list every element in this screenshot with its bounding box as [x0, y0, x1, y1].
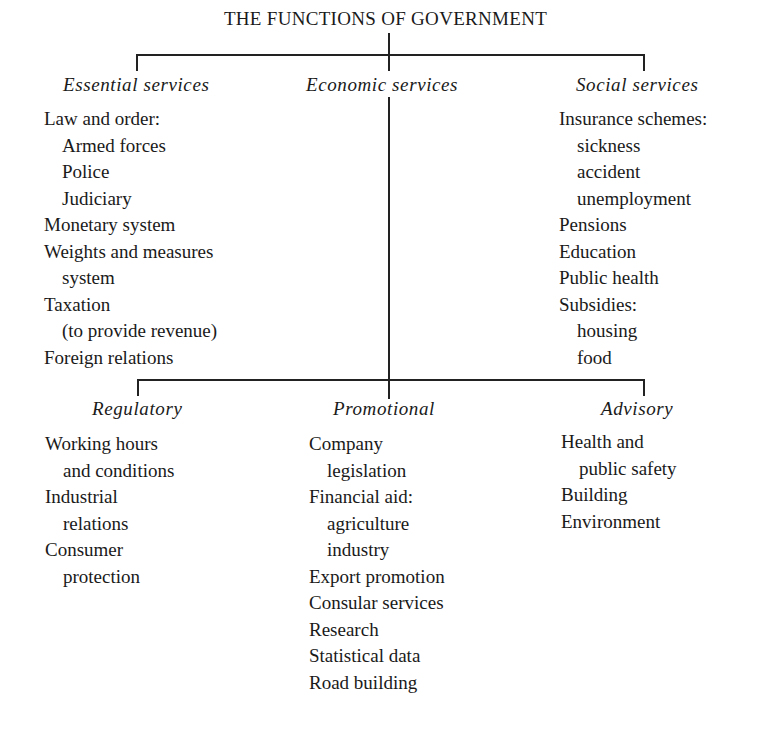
list-item: legislation [309, 458, 445, 485]
list-item: Armed forces [44, 133, 217, 160]
list-item: accident [559, 159, 707, 186]
connector-advisory-drop [643, 379, 645, 396]
list-item: Monetary system [44, 212, 217, 239]
list-item: agriculture [309, 511, 445, 538]
list-item: Export promotion [309, 564, 445, 591]
list-item: system [44, 265, 217, 292]
list-item: food [559, 345, 707, 372]
regulatory-list: Working hours and conditions Industrial … [45, 431, 174, 590]
list-item: Education [559, 239, 707, 266]
list-item: Insurance schemes: [559, 106, 707, 133]
heading-promotional: Promotional [333, 398, 435, 420]
list-item: public safety [561, 456, 677, 483]
list-item: relations [45, 511, 174, 538]
list-item: Environment [561, 509, 677, 536]
essential-services-list: Law and order: Armed forces Police Judic… [44, 106, 217, 371]
connector-title-stem [388, 33, 390, 55]
list-item: sickness [559, 133, 707, 160]
connector-economic-drop [388, 54, 390, 71]
connector-social-drop [643, 54, 645, 71]
list-item: Consular services [309, 590, 445, 617]
list-item: Working hours [45, 431, 174, 458]
advisory-list: Health and public safety Building Enviro… [561, 429, 677, 535]
connector-essential-drop [136, 54, 138, 71]
connector-lower-bar [137, 379, 645, 381]
list-item: Foreign relations [44, 345, 217, 372]
list-item: and conditions [45, 458, 174, 485]
list-item: Subsidies: [559, 292, 707, 319]
list-item: Road building [309, 670, 445, 697]
list-item: housing [559, 318, 707, 345]
list-item: Statistical data [309, 643, 445, 670]
list-item: Research [309, 617, 445, 644]
list-item: Taxation [44, 292, 217, 319]
heading-social-services: Social services [576, 74, 698, 96]
heading-advisory: Advisory [601, 398, 673, 420]
list-item: Building [561, 482, 677, 509]
promotional-list: Company legislation Financial aid: agric… [309, 431, 445, 696]
list-item: Pensions [559, 212, 707, 239]
list-item: Weights and measures [44, 239, 217, 266]
connector-economic-trunk [388, 97, 390, 399]
list-item: Health and [561, 429, 677, 456]
list-item: Industrial [45, 484, 174, 511]
list-item: Law and order: [44, 106, 217, 133]
list-item: unemployment [559, 186, 707, 213]
list-item: Consumer [45, 537, 174, 564]
list-item: Judiciary [44, 186, 217, 213]
list-item: (to provide revenue) [44, 318, 217, 345]
heading-economic-services: Economic services [306, 74, 458, 96]
connector-top-bar [136, 54, 645, 56]
diagram-title: THE FUNCTIONS OF GOVERNMENT [0, 8, 771, 30]
list-item: Police [44, 159, 217, 186]
list-item: Financial aid: [309, 484, 445, 511]
list-item: Company [309, 431, 445, 458]
connector-regulatory-drop [137, 379, 139, 396]
list-item: Public health [559, 265, 707, 292]
list-item: industry [309, 537, 445, 564]
heading-essential-services: Essential services [63, 74, 209, 96]
social-services-list: Insurance schemes: sickness accident une… [559, 106, 707, 371]
heading-regulatory: Regulatory [92, 398, 182, 420]
list-item: protection [45, 564, 174, 591]
